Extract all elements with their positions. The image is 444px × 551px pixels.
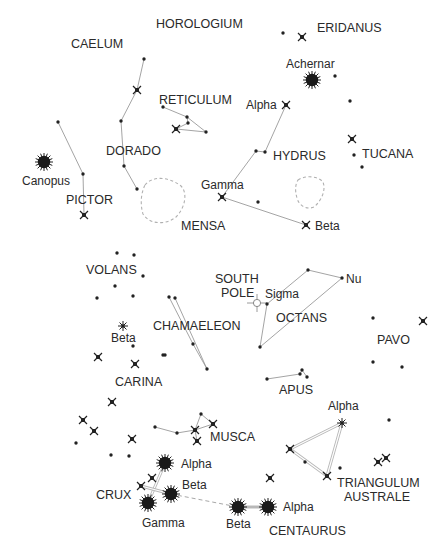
faint-star-dot	[352, 153, 355, 156]
bright-star-icon	[259, 498, 277, 516]
faint-star-dot	[205, 367, 208, 370]
faint-star-dot	[81, 172, 84, 175]
star-name-label: Sigma	[265, 287, 299, 301]
faint-star-dot	[132, 253, 135, 256]
large-magellanic-cloud	[141, 178, 185, 222]
cross-star-icon	[302, 221, 310, 229]
star-name-label: Beta	[182, 478, 207, 492]
cross-star-icon	[218, 193, 226, 201]
cross-star-icon	[193, 437, 201, 445]
faint-star-dot	[167, 295, 170, 298]
faint-star-dot	[204, 130, 207, 133]
constellation-label: OCTANS	[276, 311, 327, 325]
constellation-label: AUSTRALE	[344, 490, 410, 504]
small-magellanic-cloud	[296, 177, 324, 208]
star-name-label: Alpha	[246, 98, 277, 112]
star-name-label: Beta	[315, 219, 340, 233]
constellation-label: TUCANA	[362, 147, 414, 161]
cross-star-icon	[148, 474, 156, 482]
constellation-label: CAELUM	[71, 37, 123, 51]
faint-star-dot	[175, 431, 178, 434]
star-name-label: Canopus	[22, 174, 70, 188]
reticulum-lines	[163, 107, 206, 132]
bright-star-icon	[162, 485, 180, 503]
star-name-label: Nu	[346, 272, 361, 286]
bright-star-icon	[35, 153, 53, 171]
faint-star-dot	[74, 441, 77, 444]
faint-star-dot	[371, 360, 374, 363]
star-name-label: Gamma	[201, 178, 244, 192]
bright-star-icon	[139, 494, 157, 512]
cross-star-icon	[382, 454, 390, 462]
faint-star-dot	[256, 200, 259, 203]
bright-star-icon	[229, 498, 247, 516]
faint-star-dot	[153, 425, 156, 428]
star-name-label: Alpha	[283, 500, 314, 514]
constellation-lines	[58, 59, 342, 507]
faint-star-dot	[360, 165, 363, 168]
faint-star-dot	[131, 294, 134, 297]
cross-star-icon	[90, 427, 98, 435]
faint-star-dot	[281, 31, 284, 34]
constellation-label: PICTOR	[66, 193, 113, 207]
faint-star-dot	[265, 377, 268, 380]
cross-star-icon	[133, 86, 141, 94]
cross-star-icon	[94, 353, 102, 361]
constellation-label: CHAMAELEON	[153, 319, 241, 333]
faint-star-dot	[300, 368, 303, 371]
faint-star-dot	[163, 353, 166, 356]
constellation-label: HOROLOGIUM	[156, 17, 243, 31]
asterisk-star-icon	[118, 321, 128, 331]
bright-star-icon	[303, 71, 321, 89]
faint-star-dot	[263, 150, 266, 153]
faint-star-dot	[122, 164, 125, 167]
constellation-label: APUS	[279, 383, 313, 397]
faint-star-dot	[199, 412, 202, 415]
faint-star-dot	[303, 460, 306, 463]
cross-star-icon	[374, 458, 382, 466]
star-chart: HOROLOGIUMERIDANUSCAELUMRETICULUMDORADOH…	[0, 0, 444, 551]
octans-lines	[260, 270, 342, 347]
faint-star-dot	[348, 99, 351, 102]
constellation-label: ERIDANUS	[317, 21, 382, 35]
constellation-label: CENTAURUS	[269, 524, 346, 538]
constellation-label: PAVO	[377, 333, 410, 347]
faint-star-dot	[186, 121, 189, 124]
faint-star-dot	[135, 187, 138, 190]
constellation-label: MENSA	[181, 219, 226, 233]
faint-star-dot	[338, 466, 341, 469]
cross-star-icon	[298, 33, 306, 41]
constellation-label: VOLANS	[86, 263, 137, 277]
star-name-label: Achernar	[286, 57, 335, 71]
constellation-label: DORADO	[106, 144, 161, 158]
faint-star-dot	[387, 418, 390, 421]
musca-lines	[155, 414, 213, 441]
faint-star-dot	[56, 120, 59, 123]
cross-star-icon	[282, 101, 290, 109]
cross-star-icon	[191, 426, 199, 434]
faint-star-dot	[371, 316, 374, 319]
chamaeleon-lines	[169, 297, 207, 369]
constellation-label: RETICULUM	[159, 93, 232, 107]
cross-star-icon	[108, 398, 116, 406]
cross-star-icon	[419, 317, 427, 325]
cut-off-caption	[0, 540, 160, 551]
star-name-label: Alpha	[181, 457, 212, 471]
dorado-lines	[121, 59, 144, 189]
cross-star-icon	[209, 420, 217, 428]
pointer-line	[171, 494, 238, 507]
cross-star-icon	[131, 360, 139, 368]
bright-star-icon	[156, 454, 174, 472]
constellation-label: TRIANGULUM	[337, 476, 420, 490]
faint-star-dot	[127, 454, 130, 457]
star-name-label: Beta	[226, 517, 251, 531]
cross-star-icon	[266, 474, 274, 482]
faint-star-dot	[258, 345, 261, 348]
asterisk-star-icon	[337, 418, 347, 428]
faint-star-dot	[173, 296, 176, 299]
faint-star-dot	[109, 453, 112, 456]
faint-star-dot	[142, 57, 145, 60]
cross-star-icon	[79, 416, 87, 424]
constellation-label: SOUTH	[215, 272, 259, 286]
constellation-label: CARINA	[115, 375, 163, 389]
